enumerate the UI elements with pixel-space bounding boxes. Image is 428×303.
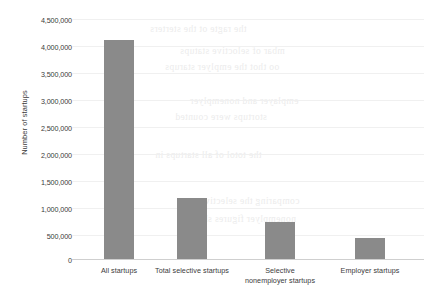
- bar-total-selective-startups: [177, 198, 207, 259]
- x-tick-label-line: Total selective startups: [148, 266, 236, 276]
- x-axis-baseline: [72, 259, 424, 260]
- y-tick-label: 3,500,000: [14, 70, 72, 79]
- y-tick-label: 2,500,000: [14, 124, 72, 133]
- y-tick-label: 3,000,000: [14, 97, 72, 106]
- x-tick-label-line: All startups: [79, 266, 159, 276]
- y-tick-label: 2,000,000: [14, 151, 72, 160]
- y-tick-label: 4,500,000: [14, 16, 72, 25]
- x-tick-label-all-startups: All startups: [79, 266, 159, 276]
- y-tick-label: 1,000,000: [14, 205, 72, 214]
- x-tick-label-line: Employer startups: [328, 266, 412, 276]
- gridline: [72, 19, 424, 20]
- y-axis-tick-labels: 4,500,000 4,000,000 3,500,000 3,000,000 …: [0, 0, 72, 303]
- bar-selective-nonemployer-startups: [265, 222, 295, 259]
- x-tick-label-line: nonemployer startups: [236, 276, 324, 286]
- x-tick-label-line: Selective: [236, 266, 324, 276]
- y-tick-label: 500,000: [14, 232, 72, 241]
- y-tick-label: 0: [14, 256, 72, 265]
- bar-chart: the ragte ot the sterters mbar of seloct…: [0, 0, 428, 303]
- plot-area: All startups Total selective startups Se…: [72, 0, 428, 303]
- y-tick-label: 1,500,000: [14, 178, 72, 187]
- bar-all-startups: [104, 40, 134, 259]
- bar-employer-startups: [355, 238, 385, 259]
- y-tick-label: 4,000,000: [14, 43, 72, 52]
- x-tick-label-employer-startups: Employer startups: [328, 266, 412, 276]
- x-tick-label-total-selective-startups: Total selective startups: [148, 266, 236, 276]
- x-tick-label-selective-nonemployer-startups: Selective nonemployer startups: [236, 266, 324, 285]
